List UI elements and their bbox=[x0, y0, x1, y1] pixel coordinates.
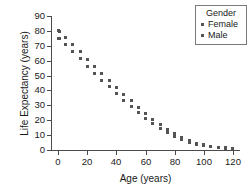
data-point-male bbox=[115, 92, 118, 95]
data-point-female bbox=[93, 65, 96, 68]
x-axis-title: Age (years) bbox=[51, 173, 240, 184]
chart-figure: 0102030405060708090 020406080100120 Life… bbox=[0, 0, 252, 193]
data-point-male bbox=[93, 72, 96, 75]
x-tick bbox=[87, 151, 88, 155]
legend-item-male[interactable]: Male bbox=[196, 30, 246, 41]
x-tick-label: 60 bbox=[131, 157, 161, 167]
data-point-male bbox=[231, 147, 234, 150]
data-point-female bbox=[100, 72, 103, 75]
data-point-male bbox=[209, 145, 212, 148]
data-point-female bbox=[64, 36, 67, 39]
x-tick-label: 0 bbox=[43, 157, 73, 167]
data-point-female bbox=[115, 86, 118, 89]
x-tick bbox=[116, 151, 117, 155]
data-point-female bbox=[79, 50, 82, 53]
female-marker-icon bbox=[201, 23, 204, 26]
data-point-female bbox=[108, 79, 111, 82]
data-point-male bbox=[180, 138, 183, 141]
data-point-female bbox=[144, 112, 147, 115]
legend-label-female: Female bbox=[208, 19, 238, 30]
x-tick bbox=[204, 151, 205, 155]
data-point-male bbox=[144, 117, 147, 120]
legend-item-female[interactable]: Female bbox=[196, 19, 246, 30]
x-tick bbox=[146, 151, 147, 155]
data-point-male bbox=[151, 122, 154, 125]
y-tick bbox=[47, 150, 51, 151]
data-point-male bbox=[224, 147, 227, 150]
data-point-female bbox=[86, 58, 89, 61]
data-point-male bbox=[58, 37, 61, 40]
data-point-female bbox=[71, 43, 74, 46]
x-tick bbox=[58, 151, 59, 155]
data-point-female bbox=[58, 30, 61, 33]
x-tick bbox=[175, 151, 176, 155]
legend-label-male: Male bbox=[208, 30, 228, 41]
data-point-female bbox=[137, 106, 140, 109]
data-point-male bbox=[202, 144, 205, 147]
y-axis-title: Life Expectancy (years) bbox=[19, 14, 30, 154]
legend-title: Gender bbox=[196, 8, 246, 19]
data-point-female bbox=[122, 93, 125, 96]
data-point-male bbox=[122, 99, 125, 102]
data-point-male bbox=[100, 79, 103, 82]
x-tick-label: 20 bbox=[72, 157, 102, 167]
x-tick-label: 100 bbox=[189, 157, 219, 167]
data-point-female bbox=[151, 118, 154, 121]
data-point-male bbox=[173, 135, 176, 138]
x-tick bbox=[233, 151, 234, 155]
data-point-male bbox=[79, 57, 82, 60]
x-tick-label: 80 bbox=[160, 157, 190, 167]
x-tick-label: 120 bbox=[218, 157, 248, 167]
data-point-male bbox=[137, 111, 140, 114]
data-point-male bbox=[166, 131, 169, 134]
data-point-male bbox=[159, 127, 162, 130]
data-point-male bbox=[108, 85, 111, 88]
data-point-male bbox=[130, 105, 133, 108]
chart-legend: Gender Female Male bbox=[195, 5, 247, 45]
data-point-male bbox=[64, 43, 67, 46]
data-point-male bbox=[195, 143, 198, 146]
x-tick-label: 40 bbox=[101, 157, 131, 167]
data-point-male bbox=[71, 50, 74, 53]
data-point-female bbox=[159, 123, 162, 126]
data-point-female bbox=[130, 99, 133, 102]
data-point-male bbox=[217, 146, 220, 149]
data-point-male bbox=[86, 65, 89, 68]
data-point-male bbox=[188, 141, 191, 144]
chart-title bbox=[51, 0, 240, 2]
male-marker-icon bbox=[201, 34, 204, 37]
